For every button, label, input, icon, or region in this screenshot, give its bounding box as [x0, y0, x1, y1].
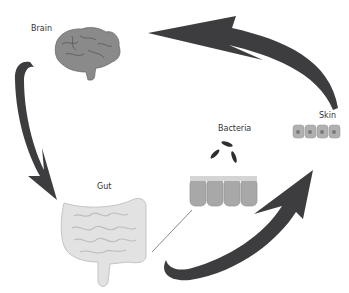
skin-label: Skin [319, 111, 336, 120]
arrow-skin-to-brain [148, 16, 338, 110]
connector-line [152, 210, 192, 252]
bacteria-label: Bacteria [218, 124, 251, 133]
brain-illustration [55, 28, 120, 80]
brain-label: Brain [31, 24, 52, 33]
skin-cells [293, 125, 340, 138]
gut-illustration [61, 198, 146, 286]
gut-label: Gut [97, 182, 111, 191]
gut-cells [190, 176, 257, 206]
bacteria-illustration [209, 140, 238, 163]
arrow-brain-to-gut [15, 62, 57, 200]
diagram-canvas [0, 0, 349, 293]
